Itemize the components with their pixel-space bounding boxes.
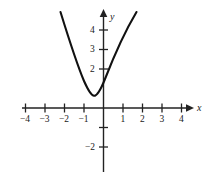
- x-tick-label-2: 2: [140, 115, 145, 125]
- y-tick-label-neg2: −2: [85, 143, 95, 153]
- x-tick-label-1: 1: [121, 115, 126, 125]
- x-tick-label-neg2: −2: [59, 115, 69, 125]
- x-axis-label: x: [197, 103, 201, 113]
- x-tick-label-3: 3: [160, 115, 165, 125]
- x-tick-label-neg1: −1: [79, 115, 89, 125]
- y-tick-label-2: 2: [90, 65, 95, 75]
- y-tick-label-4: 4: [90, 26, 95, 36]
- x-tick-label-neg4: −4: [20, 115, 30, 125]
- x-axis-arrow-icon: [186, 104, 194, 112]
- y-axis-arrow-icon: [100, 9, 108, 17]
- parabola-curve: [61, 12, 137, 96]
- y-axis-label: y: [110, 12, 114, 22]
- x-tick-label-neg3: −3: [40, 115, 50, 125]
- graph-figure: −4 −3 −2 −1 1 2 3 4 4 3 2 −2 x y: [0, 0, 211, 177]
- x-tick-label-4: 4: [179, 115, 184, 125]
- y-tick-label-3: 3: [90, 45, 95, 55]
- coordinate-plane: [0, 0, 211, 177]
